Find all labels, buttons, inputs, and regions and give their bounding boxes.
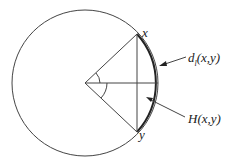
arrow-d-head	[159, 61, 167, 66]
label-arc-distance: dl(x,y)	[188, 51, 220, 68]
radius-to-x	[85, 34, 137, 83]
arrow-h-head	[146, 97, 153, 102]
label-chord-h: H(x,y)	[188, 112, 221, 125]
circle-diagram	[0, 0, 231, 164]
arrow-h-line	[149, 99, 185, 117]
label-arc-args: (x,y)	[197, 50, 220, 65]
label-point-y: y	[139, 128, 145, 141]
diagram-canvas: x y dl(x,y) H(x,y)	[0, 0, 231, 164]
angle-arc-upper	[96, 73, 100, 83]
label-point-x: x	[142, 26, 148, 39]
angle-arc-lower	[101, 83, 107, 98]
radius-to-y	[85, 83, 137, 132]
